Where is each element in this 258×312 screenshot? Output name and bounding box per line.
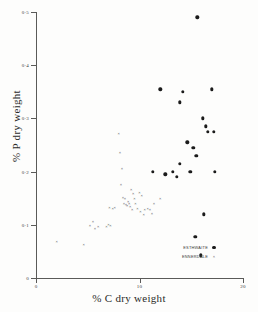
x-tick-label: 10 [137, 284, 142, 289]
x-tick-label: 0 [35, 284, 38, 289]
data-point-ennerdale [142, 213, 146, 217]
data-point-esthwaite [189, 170, 192, 173]
data-point-ennerdale [118, 151, 122, 155]
data-point-esthwaite [204, 125, 207, 128]
data-point-esthwaite [196, 16, 199, 19]
data-point-ennerdale [82, 243, 86, 247]
y-tick-mark [31, 118, 36, 119]
y-axis-line [36, 12, 37, 278]
y-tick-label: 0·3 [22, 116, 29, 121]
data-point-esthwaite [202, 212, 205, 215]
y-axis-title: % P dry weight [10, 66, 22, 186]
data-point-esthwaite [201, 117, 204, 120]
data-point-esthwaite [206, 130, 209, 133]
x-tick-mark [36, 278, 37, 283]
y-tick-mark [31, 12, 36, 13]
data-point-ennerdale [119, 183, 123, 187]
x-axis-title: % C dry weight [0, 292, 258, 304]
scatter-chart-figure: 00·10·20·30·40·501020 % C dry weight % P… [0, 0, 258, 312]
legend-label-ennerdale: ENNERDALE [182, 254, 208, 259]
legend-item-esthwaite: ESTHWAITE [168, 243, 220, 252]
x-tick-label: 20 [240, 284, 245, 289]
data-point-esthwaite [151, 170, 154, 173]
data-point-ennerdale [55, 240, 59, 244]
y-tick-label: 0·2 [22, 169, 29, 174]
legend-marker-filled-circle-icon [208, 246, 220, 249]
data-point-ennerdale [88, 224, 92, 228]
data-point-ennerdale [158, 197, 162, 201]
data-point-esthwaite [194, 235, 197, 238]
y-tick-label: 0·4 [22, 63, 29, 68]
data-point-ennerdale [96, 225, 100, 229]
data-point-esthwaite [158, 87, 161, 90]
data-point-ennerdale [113, 206, 117, 210]
data-point-esthwaite [210, 87, 213, 90]
data-point-ennerdale [152, 202, 156, 206]
data-point-esthwaite [178, 162, 181, 165]
data-point-esthwaite [212, 130, 215, 133]
y-tick-label: 0·1 [22, 222, 29, 227]
data-point-esthwaite [213, 170, 216, 173]
y-tick-mark [31, 172, 36, 173]
legend-marker-cross-icon: × [208, 254, 220, 259]
y-tick-label: 0·5 [22, 10, 29, 15]
y-tick-mark [31, 225, 36, 226]
x-tick-mark [243, 278, 244, 283]
legend-item-ennerdale: ENNERDALE × [168, 252, 220, 261]
y-tick-mark [31, 65, 36, 66]
data-point-ennerdale [117, 132, 121, 136]
data-point-esthwaite [178, 101, 181, 104]
data-point-esthwaite [192, 146, 195, 149]
data-point-ennerdale [120, 167, 124, 171]
data-point-ennerdale [130, 208, 134, 212]
data-point-esthwaite [164, 173, 167, 176]
legend-label-esthwaite: ESTHWAITE [183, 245, 208, 250]
chart-legend: ESTHWAITE ENNERDALE × [168, 243, 220, 261]
data-point-ennerdale [91, 220, 95, 224]
y-tick-label: 0 [26, 276, 29, 281]
data-point-esthwaite [195, 154, 198, 157]
data-point-esthwaite [175, 175, 178, 178]
x-tick-mark [140, 278, 141, 283]
data-point-esthwaite [171, 170, 174, 173]
data-point-ennerdale [150, 212, 154, 216]
data-point-esthwaite [181, 90, 184, 93]
data-point-ennerdale [109, 224, 113, 228]
data-point-ennerdale [140, 194, 144, 198]
data-point-esthwaite [185, 141, 188, 144]
